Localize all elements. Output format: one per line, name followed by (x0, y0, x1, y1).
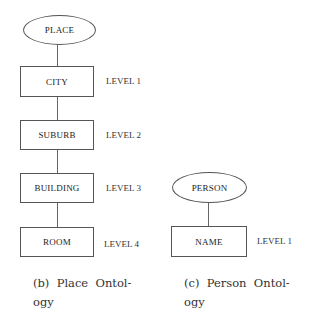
connector-line (57, 45, 58, 66)
person-node-name: NAME (171, 226, 247, 257)
caption-line: (b) Place Ontol- (33, 274, 131, 293)
caption-line: ogy (33, 293, 131, 312)
level-label: LEVEL 1 (106, 76, 141, 86)
node-label: CITY (46, 77, 68, 87)
person-root-label: PERSON (192, 183, 228, 193)
node-label: ROOM (43, 237, 71, 247)
person-caption: (c) Person Ontol- ogy (184, 274, 290, 312)
caption-line: ogy (184, 293, 290, 312)
connector-line (57, 150, 58, 173)
connector-line (208, 203, 209, 226)
caption-line: (c) Person Ontol- (184, 274, 290, 293)
level-label: LEVEL 3 (106, 183, 141, 193)
level-label: LEVEL 1 (257, 236, 292, 246)
place-node-building: BUILDING (20, 173, 94, 203)
place-caption: (b) Place Ontol- ogy (33, 274, 131, 312)
level-label: LEVEL 2 (106, 130, 141, 140)
node-label: SUBURB (38, 130, 75, 140)
connector-line (57, 97, 58, 120)
node-label: NAME (195, 237, 222, 247)
place-root-node: PLACE (23, 15, 96, 45)
node-label: BUILDING (34, 183, 79, 193)
place-node-room: ROOM (20, 227, 94, 257)
person-root-node: PERSON (172, 172, 247, 203)
place-node-city: CITY (20, 66, 94, 97)
place-node-suburb: SUBURB (20, 120, 94, 150)
level-label: LEVEL 4 (104, 239, 139, 249)
connector-line (57, 203, 58, 227)
place-root-label: PLACE (45, 25, 75, 35)
